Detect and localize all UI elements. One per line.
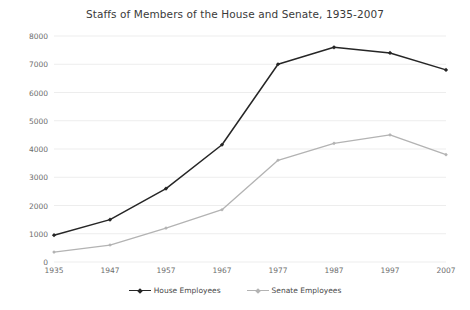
data-point-marker xyxy=(164,226,168,230)
legend-entry[interactable]: Senate Employees xyxy=(247,286,342,295)
chart-title: Staffs of Members of the House and Senat… xyxy=(0,8,470,20)
y-tick-label: 7000 xyxy=(8,60,48,69)
chart-plot-svg xyxy=(54,36,446,262)
data-point-marker xyxy=(388,133,392,137)
line-chart: Staffs of Members of the House and Senat… xyxy=(0,0,470,310)
y-tick-label: 3000 xyxy=(8,173,48,182)
plot-area xyxy=(54,36,446,262)
data-point-marker xyxy=(108,243,112,247)
x-tick-label: 1987 xyxy=(324,266,343,275)
x-tick-label: 2007 xyxy=(436,266,455,275)
y-tick-label: 0 xyxy=(8,258,48,267)
data-point-marker xyxy=(332,142,336,146)
legend-label: House Employees xyxy=(154,286,221,295)
data-point-marker xyxy=(388,51,392,55)
legend-swatch-icon xyxy=(129,287,151,295)
x-tick-label: 1935 xyxy=(44,266,63,275)
y-tick-label: 6000 xyxy=(8,88,48,97)
y-tick-label: 5000 xyxy=(8,116,48,125)
series-line xyxy=(54,47,446,235)
x-axis: 19351947195719671977198719972007 xyxy=(54,266,446,280)
x-tick-label: 1977 xyxy=(268,266,287,275)
legend-swatch-icon xyxy=(247,287,269,295)
y-tick-label: 4000 xyxy=(8,145,48,154)
x-tick-label: 1957 xyxy=(156,266,175,275)
data-point-marker xyxy=(52,250,56,254)
data-point-marker xyxy=(444,68,448,72)
x-tick-label: 1997 xyxy=(380,266,399,275)
y-tick-label: 8000 xyxy=(8,32,48,41)
legend-label: Senate Employees xyxy=(272,286,342,295)
data-point-marker xyxy=(332,45,336,49)
chart-legend: House EmployeesSenate Employees xyxy=(0,286,470,295)
x-tick-label: 1947 xyxy=(100,266,119,275)
series-line xyxy=(54,135,446,252)
y-tick-label: 1000 xyxy=(8,229,48,238)
x-tick-label: 1967 xyxy=(212,266,231,275)
y-tick-label: 2000 xyxy=(8,201,48,210)
data-point-marker xyxy=(444,153,448,157)
legend-entry[interactable]: House Employees xyxy=(129,286,221,295)
y-axis: 010002000300040005000600070008000 xyxy=(6,36,48,262)
